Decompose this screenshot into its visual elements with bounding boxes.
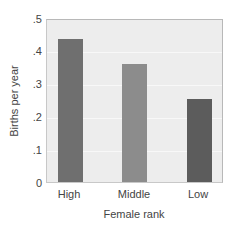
y-tick-2: .2 xyxy=(22,112,42,123)
bar-low xyxy=(187,99,212,182)
y-tick-5: .5 xyxy=(22,14,42,25)
x-tick-low: Low xyxy=(168,189,228,200)
bar-chart: Births per year 0 .1 .2 .3 .4 .5 High Mi… xyxy=(0,0,234,232)
y-tick-4: .4 xyxy=(22,46,42,57)
y-tick-0: 0 xyxy=(22,178,42,189)
bar-high xyxy=(58,39,83,182)
bar-middle xyxy=(122,64,147,182)
plot-area xyxy=(46,19,223,183)
x-axis-label: Female rank xyxy=(103,209,164,220)
x-tick-high: High xyxy=(39,189,99,200)
x-tick-middle: Middle xyxy=(104,189,164,200)
y-axis-label: Births per year xyxy=(9,65,20,137)
y-tick-3: .3 xyxy=(22,79,42,90)
y-tick-1: .1 xyxy=(22,145,42,156)
